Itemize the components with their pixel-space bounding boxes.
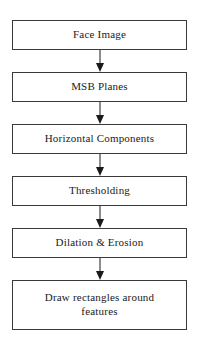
flowchart-node-chain: Face Image MSB Planes Horizontal Compone… (12, 20, 187, 330)
flowchart-node-draw-rectangles: Draw rectangles around features (12, 280, 187, 330)
flowchart-diagram: Face Image MSB Planes Horizontal Compone… (0, 0, 199, 346)
arrow-down-icon (94, 50, 105, 72)
arrow-down-icon (94, 154, 105, 176)
flowchart-node-label: Horizontal Components (45, 132, 155, 146)
flowchart-node-thresholding: Thresholding (12, 176, 187, 206)
flowchart-arrow-horizontal-components-to-thresholding (12, 154, 187, 176)
flowchart-arrow-face-image-to-msb-planes (12, 50, 187, 72)
flowchart-node-label: Draw rectangles around features (45, 291, 154, 319)
flowchart-node-label: MSB Planes (71, 80, 128, 94)
flowchart-node-label: Dilation & Erosion (56, 236, 144, 250)
flowchart-node-msb-planes: MSB Planes (12, 72, 187, 102)
flowchart-node-label: Face Image (73, 28, 126, 42)
flowchart-arrow-thresholding-to-dilation-erosion (12, 206, 187, 228)
flowchart-node-horizontal-components: Horizontal Components (12, 124, 187, 154)
flowchart-node-label: Thresholding (69, 184, 130, 198)
flowchart-node-dilation-erosion: Dilation & Erosion (12, 228, 187, 258)
flowchart-node-face-image: Face Image (12, 20, 187, 50)
flowchart-arrow-msb-planes-to-horizontal-components (12, 102, 187, 124)
arrow-down-icon (94, 258, 105, 280)
flowchart-arrow-dilation-erosion-to-draw-rectangles (12, 258, 187, 280)
arrow-down-icon (94, 102, 105, 124)
arrow-down-icon (94, 206, 105, 228)
